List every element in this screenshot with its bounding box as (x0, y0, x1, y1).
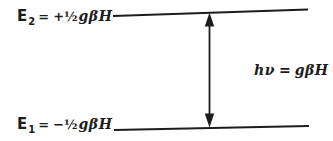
transition-expression: gβH (295, 62, 329, 78)
upper-equals-sign: = (38, 9, 49, 24)
energy-level-diagram: E2=+½gβH E1=−½gβH hν=gβH (0, 0, 333, 141)
lower-energy-symbol: E (17, 115, 27, 133)
lower-expression: gβH (79, 116, 113, 132)
transition-energy-label: hν=gβH (254, 62, 328, 78)
upper-level-label: E2=+½gβH (17, 8, 112, 24)
arrowhead-down-icon (205, 114, 214, 128)
upper-expression: gβH (79, 8, 113, 24)
planck-symbol: h (254, 62, 265, 78)
lower-level-line (114, 126, 309, 130)
arrowhead-up-icon (205, 13, 214, 27)
upper-level-line (113, 10, 308, 17)
transition-equals-sign: = (279, 62, 291, 78)
frequency-symbol: ν (265, 62, 275, 78)
lower-level-label: E1=−½gβH (17, 116, 112, 132)
upper-energy-subscript: 2 (28, 16, 35, 27)
lower-energy-subscript: 1 (28, 124, 35, 135)
lower-equals-sign: = (38, 117, 49, 132)
upper-energy-symbol: E (17, 7, 27, 25)
upper-coefficient: +½ (53, 9, 77, 24)
lower-coefficient: −½ (53, 117, 77, 132)
